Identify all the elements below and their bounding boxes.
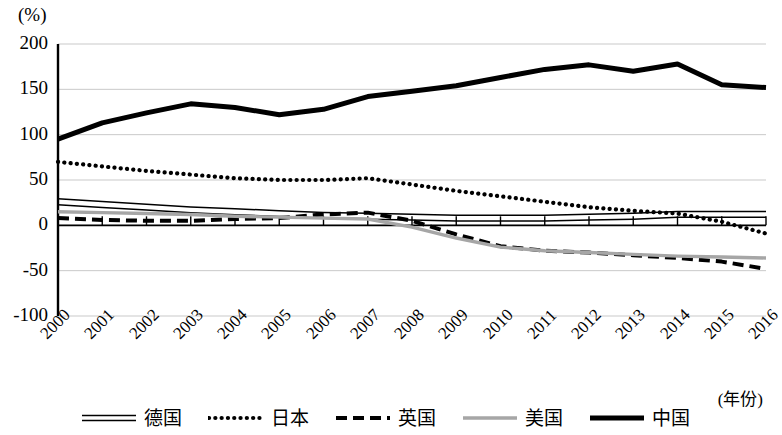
y-tick-label: 50 [2, 169, 48, 188]
legend-label: 日本 [271, 409, 309, 428]
gridlines [58, 44, 766, 316]
legend-swatch-dashed-icon [335, 411, 391, 425]
y-tick-label: 200 [2, 33, 48, 52]
legend-label: 美国 [525, 409, 563, 428]
y-tick-label: 100 [2, 124, 48, 143]
legend-item-中国[interactable]: 中国 [589, 409, 690, 428]
legend-label: 德国 [144, 409, 182, 428]
legend-swatch-solid-icon [462, 411, 518, 425]
legend-swatch-dotted-icon [208, 411, 264, 425]
legend-label: 英国 [398, 409, 436, 428]
series-layer [58, 64, 766, 269]
series-中国 [58, 64, 766, 139]
legend-swatch-double-solid-icon [81, 411, 137, 425]
y-tick-label: -100 [2, 305, 48, 324]
legend-item-美国[interactable]: 美国 [462, 409, 563, 428]
y-tick-label: -50 [2, 260, 48, 279]
y-tick-label: 150 [2, 78, 48, 97]
legend-swatch-thick-solid-icon [589, 411, 645, 425]
y-tick-label: 0 [2, 214, 48, 233]
chart-legend: 德国日本英国美国中国 [0, 404, 771, 432]
legend-item-日本[interactable]: 日本 [208, 409, 309, 428]
legend-label: 中国 [652, 409, 690, 428]
legend-item-德国[interactable]: 德国 [81, 409, 182, 428]
legend-item-英国[interactable]: 英国 [335, 409, 436, 428]
